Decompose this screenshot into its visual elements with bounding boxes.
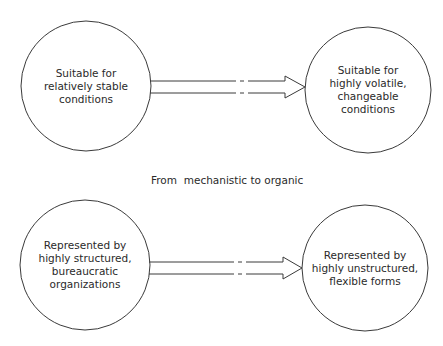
node-bureaucratic-organizations: Represented by highly structured, bureau… [25, 235, 145, 295]
node-text-line: Suitable for [338, 64, 399, 77]
node-text-line: flexible forms [329, 275, 400, 288]
node-volatile-conditions: Suitable for highly volatile, changeable… [308, 60, 428, 120]
node-text-line: changeable [337, 90, 398, 103]
node-text-line: conditions [341, 103, 395, 116]
node-text-line: relatively stable [44, 80, 128, 93]
node-text-line: highly unstructured, [312, 262, 418, 275]
diagram-caption: From mechanistic to organic [151, 174, 303, 186]
node-text-line: Represented by [44, 239, 127, 252]
node-text-line: organizations [50, 278, 121, 291]
node-text-line: Represented by [324, 249, 407, 262]
node-stable-conditions: Suitable for relatively stable condition… [26, 56, 146, 116]
node-text-line: highly volatile, [329, 77, 406, 90]
node-text-line: highly structured, [38, 252, 131, 265]
arrow-bottom [149, 257, 302, 279]
arrow-top [150, 76, 305, 98]
node-text-line: conditions [59, 93, 113, 106]
node-text-line: Suitable for [56, 67, 117, 80]
node-flexible-forms: Represented by highly unstructured, flex… [305, 238, 425, 298]
node-text-line: bureaucratic [52, 265, 118, 278]
